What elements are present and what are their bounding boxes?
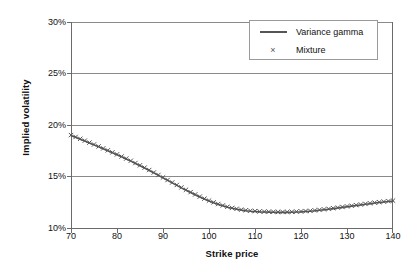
legend-label-mixture: Mixture xyxy=(296,45,326,55)
y-tick-label-20: 20% xyxy=(6,120,66,130)
x-tick-label-120: 120 xyxy=(281,231,321,242)
cross-marker-icon: × xyxy=(250,46,296,55)
series-variance-gamma xyxy=(71,136,393,213)
line-swatch-icon xyxy=(250,31,296,33)
x-tick-label-80: 80 xyxy=(97,231,137,242)
x-tick-label-90: 90 xyxy=(143,231,183,242)
legend-label-variance-gamma: Variance gamma xyxy=(296,27,363,37)
y-tick-label-25: 25% xyxy=(6,68,66,78)
y-tick-label-30: 30% xyxy=(6,17,66,27)
x-tick-label-110: 110 xyxy=(235,231,275,242)
legend-item-variance-gamma[interactable]: Variance gamma xyxy=(250,22,377,42)
y-axis-title: Implied volatility xyxy=(20,38,31,198)
legend-box: Variance gamma × Mixture xyxy=(249,20,378,60)
series-mixture xyxy=(69,133,395,214)
y-tick-marks xyxy=(67,23,71,229)
legend-item-mixture[interactable]: × Mixture xyxy=(250,40,377,60)
x-tick-label-130: 130 xyxy=(327,231,367,242)
x-tick-label-140: 140 xyxy=(373,231,413,242)
x-tick-label-100: 100 xyxy=(189,231,229,242)
y-tick-label-15: 15% xyxy=(6,171,66,181)
implied-volatility-chart: 30% 25% 20% 15% 10% 70 80 90 100 110 120… xyxy=(0,0,417,273)
x-axis-title: Strike price xyxy=(71,248,393,259)
x-tick-label-70: 70 xyxy=(51,231,91,242)
